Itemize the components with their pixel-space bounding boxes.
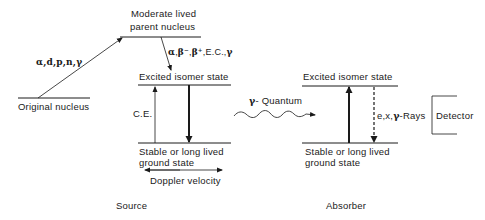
beta-plus-symbol: β⁺ — [192, 47, 203, 57]
source-ground-state-label-line2: ground state — [139, 157, 194, 168]
absorber-ground-state-label-line2: ground state — [305, 157, 360, 168]
emission-prefix: e,x, — [377, 110, 393, 121]
production-particles-label: α,d,p,n,γ — [36, 57, 82, 68]
beta-minus-symbol: β⁻ — [178, 47, 189, 57]
parent-nucleus-label-line1: Moderate lived — [131, 8, 196, 19]
absorber-excited-state-label: Excited isomer state — [303, 71, 393, 82]
detector-label: Detector — [436, 110, 474, 121]
doppler-velocity-label: Doppler velocity — [150, 175, 221, 186]
production-arrow — [38, 38, 122, 98]
conversion-electron-label: C.E. — [133, 108, 152, 119]
absorber-label: Absorber — [326, 200, 366, 211]
gamma-quantum-text: - Quantum — [255, 95, 302, 106]
source-excited-state-label: Excited isomer state — [139, 71, 229, 82]
emission-label: e,x,γ-Rays — [377, 110, 425, 121]
source-ground-state-label-line1: Stable or long lived — [139, 146, 224, 157]
emission-suffix: -Rays — [400, 110, 426, 121]
gamma-quantum-wave — [234, 111, 315, 118]
gamma-symbol: γ — [227, 47, 233, 57]
decay-modes-label: α,β⁻,β⁺,E.C.,γ — [168, 47, 233, 58]
original-nucleus-label: Original nucleus — [18, 101, 89, 112]
absorber-ground-state-label-line1: Stable or long lived — [305, 146, 390, 157]
gamma-quantum-label: γ- Quantum — [249, 95, 302, 106]
source-label: Source — [116, 200, 147, 211]
parent-nucleus-label-line2: parent nucleus — [130, 21, 195, 32]
decay-modes-text: ,E.C., — [203, 47, 227, 57]
